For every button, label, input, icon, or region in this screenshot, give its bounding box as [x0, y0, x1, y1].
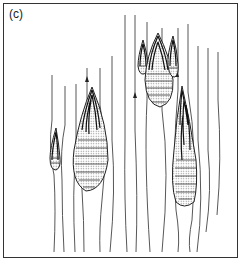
drop-small-top-2 [168, 36, 178, 77]
drop-large-center [73, 87, 108, 191]
streamlines [50, 15, 219, 252]
drop-small-left [50, 128, 60, 170]
drop-structures [50, 33, 197, 206]
arrow-icon [85, 76, 89, 82]
arrow-icon [133, 92, 137, 98]
streamline-diagram [0, 0, 246, 264]
drop-large-right [172, 86, 197, 206]
